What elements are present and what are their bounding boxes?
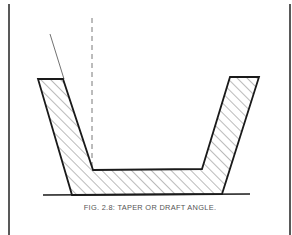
- taper-diagram: [0, 0, 292, 235]
- draft-angle-line: [50, 34, 64, 79]
- base-line: [43, 194, 250, 195]
- hatched-section: [38, 77, 259, 195]
- figure-caption: FIG. 2.8: TAPER OR DRAFT ANGLE.: [0, 203, 292, 212]
